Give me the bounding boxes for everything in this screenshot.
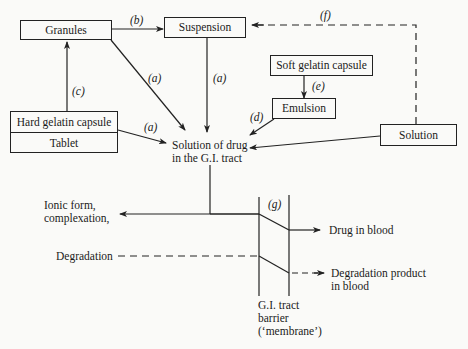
ionic-form-label: Ionic form, complexation, — [44, 199, 109, 225]
solution-gi-tract-node: Solution of drug in the G.I. tract — [172, 139, 247, 165]
barrier-line2: barrier — [258, 312, 322, 325]
tablet-label: Tablet — [11, 133, 117, 153]
suspension-label: Suspension — [165, 22, 245, 34]
degradation-product-line2: in blood — [331, 280, 426, 293]
hard-gelatin-capsule-label: Hard gelatin capsule — [11, 112, 117, 133]
ionic-line2: complexation, — [44, 212, 109, 225]
soft-gelatin-capsule-label: Soft gelatin capsule — [271, 60, 372, 72]
suspension-node: Suspension — [164, 17, 246, 38]
gi-barrier-label: G.I. tract barrier (‘membrane’) — [258, 299, 322, 338]
diagram-connectors — [0, 0, 468, 349]
solution-gi-line1: Solution of drug — [172, 139, 247, 152]
edge-label-c: (c) — [72, 85, 85, 98]
degradation-product-label: Degradation product in blood — [331, 267, 426, 293]
edge-label-a1: (a) — [148, 72, 161, 85]
solution-node: Solution — [380, 124, 457, 146]
edge-label-e: (e) — [312, 80, 325, 93]
granules-label: Granules — [21, 25, 111, 37]
emulsion-node: Emulsion — [272, 98, 336, 119]
edge-label-g: (g) — [268, 198, 281, 211]
edge-label-a3: (a) — [144, 121, 157, 134]
edge-label-b: (b) — [130, 14, 143, 27]
edge-label-f: (f) — [320, 9, 331, 22]
drug-in-blood-label: Drug in blood — [329, 224, 394, 237]
granules-node: Granules — [20, 20, 112, 40]
soft-gelatin-capsule-node: Soft gelatin capsule — [270, 55, 373, 76]
barrier-line3: (‘membrane’) — [258, 325, 322, 338]
solution-label: Solution — [381, 130, 456, 142]
degradation-label: Degradation — [56, 250, 113, 263]
edge-label-d: (d) — [250, 111, 263, 124]
degradation-product-line1: Degradation product — [331, 267, 426, 280]
hard-gelatin-tablet-node: Hard gelatin capsule Tablet — [10, 111, 118, 153]
emulsion-label: Emulsion — [273, 103, 335, 115]
solution-gi-line2: in the G.I. tract — [172, 152, 247, 165]
edge-label-a2: (a) — [213, 72, 226, 85]
barrier-line1: G.I. tract — [258, 299, 322, 312]
ionic-line1: Ionic form, — [44, 199, 109, 212]
